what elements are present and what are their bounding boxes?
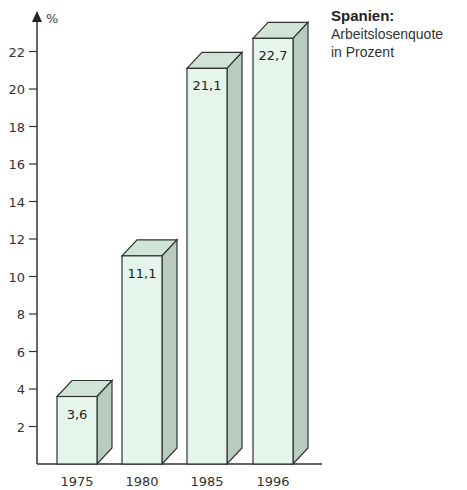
bar-side	[227, 52, 242, 464]
bar-side	[162, 240, 177, 464]
y-tick-label: 4	[17, 382, 25, 397]
bar-value-label: 11,1	[128, 266, 157, 281]
bar-front	[187, 68, 227, 464]
y-tick-label: 20	[8, 82, 25, 97]
bar-chart: %2468101214161820223,6197511,1198021,119…	[0, 0, 467, 490]
y-axis-unit: %	[46, 11, 58, 26]
x-category-label: 1996	[256, 474, 289, 489]
y-tick-label: 14	[8, 195, 25, 210]
bar-side	[293, 22, 308, 464]
y-tick-label: 2	[17, 420, 25, 435]
bar-value-label: 21,1	[193, 78, 222, 93]
y-tick-label: 6	[17, 345, 25, 360]
y-tick-label: 22	[8, 45, 25, 60]
bar-value-label: 3,6	[67, 407, 88, 422]
bar-value-label: 22,7	[259, 48, 288, 63]
x-category-label: 1985	[190, 474, 223, 489]
bar-front	[122, 256, 162, 464]
y-tick-label: 12	[8, 232, 25, 247]
y-tick-label: 18	[8, 120, 25, 135]
y-tick-label: 8	[17, 307, 25, 322]
x-category-label: 1975	[60, 474, 93, 489]
x-category-label: 1980	[125, 474, 158, 489]
y-axis-arrow-icon	[32, 11, 42, 22]
bar-front	[253, 38, 293, 464]
y-tick-label: 10	[8, 270, 25, 285]
y-tick-label: 16	[8, 157, 25, 172]
